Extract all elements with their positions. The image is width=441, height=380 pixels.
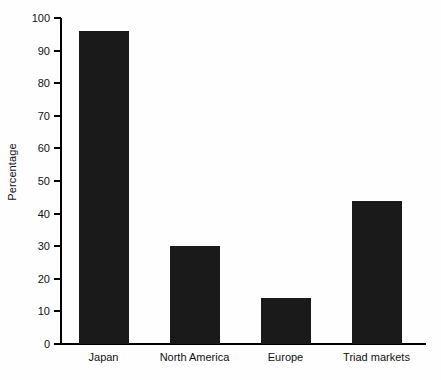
x-axis-tick-label: Japan [89, 351, 119, 363]
x-axis-tick-labels: JapanNorth AmericaEuropeTriad markets [62, 351, 426, 369]
y-axis-tick-label: 0 [2, 338, 50, 350]
y-axis-tick [54, 343, 61, 345]
plot-area [62, 18, 426, 344]
y-axis-tick [54, 213, 61, 215]
y-axis-tick-labels: 0102030405060708090100 [0, 0, 50, 380]
y-axis-tick-label: 30 [2, 240, 50, 252]
y-axis-tick [54, 180, 61, 182]
y-axis-tick-label: 50 [2, 175, 50, 187]
y-axis-tick-label: 10 [2, 305, 50, 317]
bar [261, 298, 311, 344]
y-axis-tick-label: 100 [2, 12, 50, 24]
bar [352, 201, 402, 344]
bar-chart-figure: Percentage 0102030405060708090100 JapanN… [0, 0, 441, 380]
bar [79, 31, 129, 344]
y-axis-tick [54, 17, 61, 19]
y-axis-tick-label: 90 [2, 45, 50, 57]
y-axis-tick [54, 278, 61, 280]
y-axis-tick [54, 310, 61, 312]
x-axis-tick-label: North America [160, 351, 230, 363]
y-axis-tick-label: 80 [2, 77, 50, 89]
y-axis-tick [54, 115, 61, 117]
y-axis-tick-label: 70 [2, 110, 50, 122]
y-axis-tick [54, 50, 61, 52]
y-axis-tick [54, 245, 61, 247]
y-axis-tick-label: 20 [2, 273, 50, 285]
y-axis-tick-label: 40 [2, 208, 50, 220]
x-axis-tick-label: Europe [268, 351, 303, 363]
y-axis-tick [54, 82, 61, 84]
x-axis-tick-label: Triad markets [343, 351, 410, 363]
y-axis-tick-label: 60 [2, 142, 50, 154]
bar [170, 246, 220, 344]
y-axis-tick [54, 147, 61, 149]
